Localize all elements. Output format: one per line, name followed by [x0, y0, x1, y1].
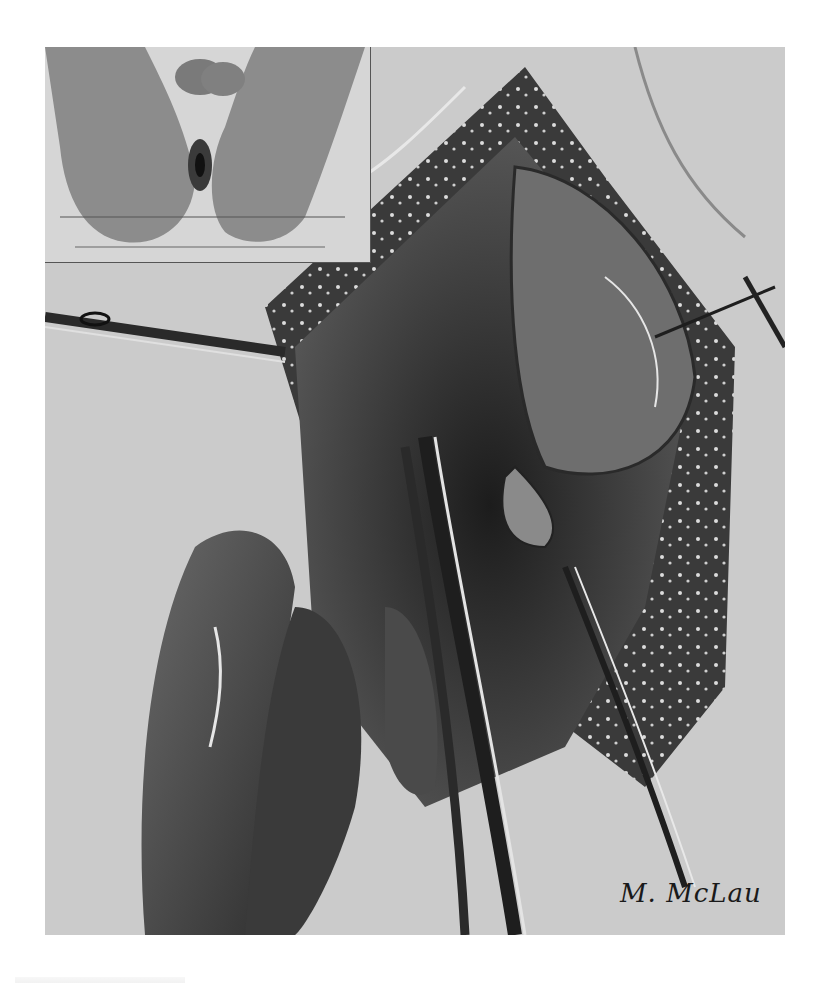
lithotomy-view-drawing — [45, 47, 370, 262]
cut-off-caption — [15, 977, 185, 983]
inset-drawing — [45, 47, 371, 263]
artist-signature: M. McLau — [620, 878, 762, 908]
